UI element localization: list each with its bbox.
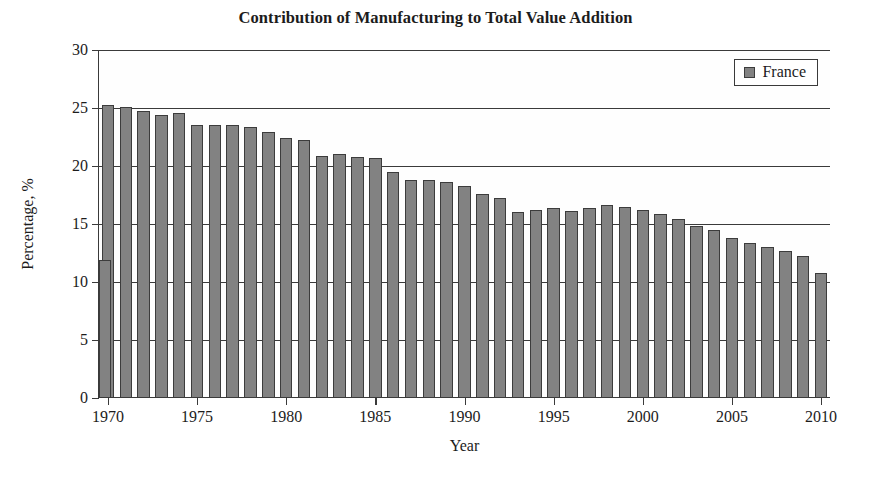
bar-1993 (512, 212, 524, 398)
chart-title: Contribution of Manufacturing to Total V… (0, 8, 871, 28)
x-tick-2010 (821, 398, 822, 405)
x-tick-label-1975: 1975 (181, 409, 213, 425)
y-axis-line (98, 50, 99, 398)
bar-1982 (316, 156, 328, 398)
x-axis-title: Year (99, 437, 830, 455)
y-tick-label-30: 30 (72, 42, 88, 58)
bar-2007 (761, 247, 773, 398)
bar-1990 (458, 186, 470, 398)
bar-2009 (797, 256, 809, 398)
bar-1971 (120, 107, 132, 398)
y-tick-label-10: 10 (72, 274, 88, 290)
x-tick-label-1990: 1990 (449, 409, 481, 425)
bar-2002 (672, 219, 684, 398)
bar-2004 (708, 230, 720, 398)
bar-2003 (690, 226, 702, 398)
x-tick-1985 (375, 398, 376, 405)
x-tick-2000 (643, 398, 644, 405)
bar-2001 (654, 214, 666, 398)
x-tick-1995 (554, 398, 555, 405)
x-tick-label-1970: 1970 (92, 409, 124, 425)
bar-1985 (369, 158, 381, 398)
bar-1988 (423, 180, 435, 398)
gridline-25 (99, 108, 830, 109)
x-tick-1975 (197, 398, 198, 405)
x-tick-1970 (108, 398, 109, 405)
bar-2005 (726, 238, 738, 398)
y-tick-label-25: 25 (72, 100, 88, 116)
bar-1992 (494, 198, 506, 398)
x-tick-label-1985: 1985 (359, 409, 391, 425)
bar-1972 (137, 111, 149, 398)
bar-2000 (637, 210, 649, 398)
x-tick-label-1995: 1995 (538, 409, 570, 425)
legend-swatch-france (744, 67, 755, 78)
gridline-30 (99, 50, 830, 51)
bar-1984 (351, 157, 363, 398)
bar-1978 (244, 127, 256, 398)
chart-figure: Contribution of Manufacturing to Total V… (0, 0, 871, 482)
plot-area: 051015202530 197019751980198519901995200… (99, 50, 830, 398)
x-tick-label-2010: 2010 (805, 409, 837, 425)
bar-1979 (262, 132, 274, 398)
y-tick-label-5: 5 (80, 332, 88, 348)
y-axis-title: Percentage, % (17, 50, 39, 398)
bar-1999 (619, 207, 631, 398)
bar-1976 (209, 125, 221, 398)
bar-1987 (405, 180, 417, 398)
bar-1983 (333, 154, 345, 398)
bar-1989 (440, 182, 452, 398)
y-tick-label-0: 0 (80, 390, 88, 406)
y-tick-label-20: 20 (72, 158, 88, 174)
bar-1994 (530, 210, 542, 398)
bar-1997 (583, 208, 595, 398)
bar-2008 (779, 251, 791, 398)
bar-2010 (815, 273, 827, 398)
bar-1977 (226, 125, 238, 398)
bar-1981 (298, 140, 310, 398)
bar-1991 (476, 194, 488, 398)
legend-label-france: France (762, 64, 806, 80)
bar-1995 (547, 208, 559, 398)
bar-2006 (744, 243, 756, 398)
x-tick-label-2005: 2005 (716, 409, 748, 425)
x-tick-2005 (732, 398, 733, 405)
y-tick-label-15: 15 (72, 216, 88, 232)
bar-1973 (155, 115, 167, 398)
bar-1986 (387, 172, 399, 398)
bar-1996 (565, 211, 577, 398)
bar-1974 (173, 113, 185, 398)
x-tick-1980 (286, 398, 287, 405)
x-tick-1990 (465, 398, 466, 405)
bar-1998 (601, 205, 613, 398)
bar-1975 (191, 125, 203, 398)
bar-1980 (280, 138, 292, 398)
legend: France (734, 59, 818, 86)
y-axis-title-text: Percentage, % (19, 178, 37, 270)
x-tick-label-2000: 2000 (627, 409, 659, 425)
bar-undefined (99, 260, 111, 398)
y-tick-0 (92, 398, 99, 399)
x-tick-label-1980: 1980 (270, 409, 302, 425)
